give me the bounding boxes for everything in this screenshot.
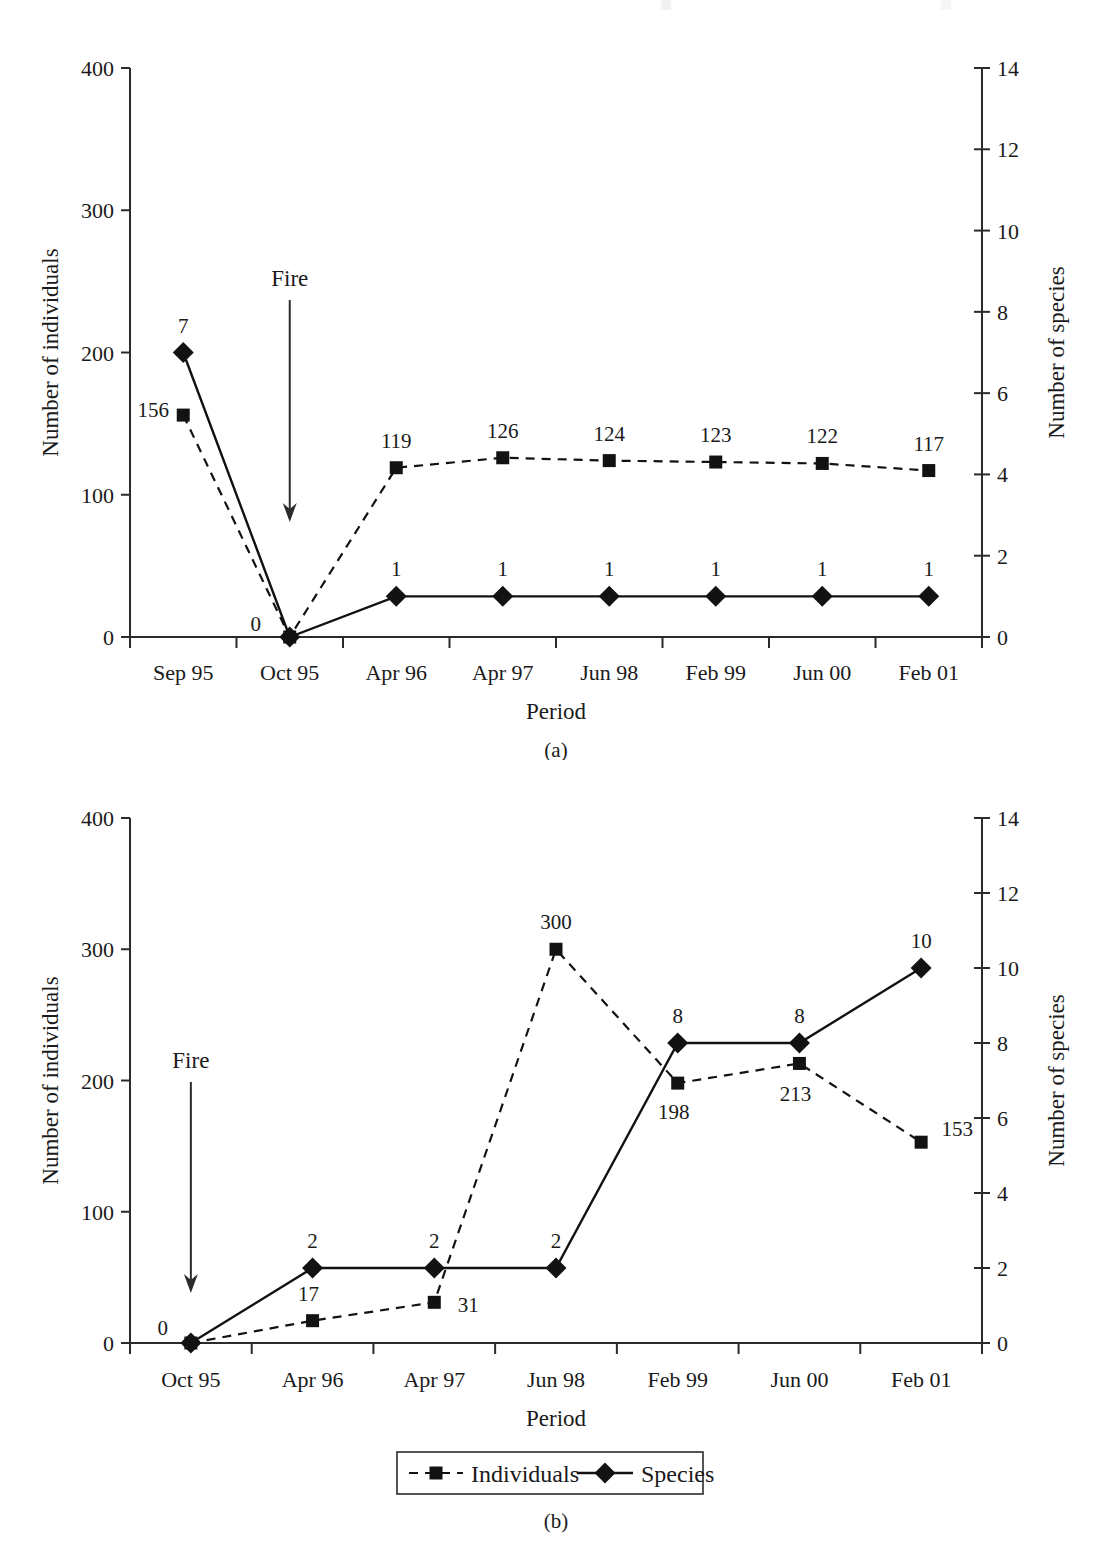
data-point-individuals: [390, 461, 403, 474]
data-label-species: 1: [498, 557, 509, 581]
data-label-species: 8: [794, 1004, 805, 1028]
right-axis-tick-label: 6: [997, 381, 1008, 406]
data-point-individuals: [793, 1057, 806, 1070]
data-label-individuals: 124: [594, 422, 626, 446]
data-point-individuals: [496, 451, 509, 464]
right-axis-tick-label: 2: [997, 544, 1008, 569]
data-labels-group: 017313001982131532228810: [158, 910, 973, 1340]
x-axis-category-label: Jun 98: [527, 1367, 585, 1392]
data-point-species: [546, 1258, 567, 1279]
axes-group: 010020030040002468101214Sep 95Oct 95Apr …: [38, 56, 1069, 724]
data-point-species: [667, 1033, 688, 1054]
left-axis-tick-label: 200: [81, 1069, 114, 1094]
chart-panel-a: 010020030040002468101214Sep 95Oct 95Apr …: [0, 0, 1095, 760]
x-axis-category-label: Feb 99: [686, 660, 747, 685]
data-point-individuals: [922, 464, 935, 477]
data-point-species: [386, 586, 407, 607]
right-axis-tick-label: 10: [997, 219, 1019, 244]
x-axis-title: Period: [526, 1406, 587, 1431]
data-label-species: 2: [307, 1229, 318, 1253]
right-axis-tick-label: 4: [997, 1181, 1008, 1206]
left-axis-tick-label: 300: [81, 198, 114, 223]
data-label-individuals: 0: [251, 612, 262, 636]
panel-caption: (b): [544, 1509, 569, 1533]
data-point-individuals: [816, 457, 829, 470]
data-point-individuals: [306, 1314, 319, 1327]
data-label-individuals: 123: [700, 423, 732, 447]
left-axis-tick-label: 0: [103, 625, 114, 650]
data-label-individuals: 17: [298, 1282, 319, 1306]
data-label-species: 1: [604, 557, 615, 581]
data-point-species: [424, 1258, 445, 1279]
data-label-individuals: 300: [540, 910, 572, 934]
right-axis-tick-label: 6: [997, 1106, 1008, 1131]
data-label-species: 1: [391, 557, 402, 581]
legend-label-individuals: Individuals: [471, 1461, 579, 1487]
data-label-species: 10: [911, 929, 932, 953]
left-axis-tick-label: 0: [103, 1331, 114, 1356]
series-group: [173, 342, 940, 648]
fire-annotation: Fire: [172, 1048, 209, 1293]
data-label-individuals: 198: [658, 1100, 690, 1124]
data-label-species: 2: [551, 1229, 562, 1253]
right-axis-tick-label: 8: [997, 1031, 1008, 1056]
left-axis-tick-label: 400: [81, 56, 114, 81]
data-label-species: 8: [672, 1004, 683, 1028]
chart-panel-b: 010020030040002468101214Oct 95Apr 96Apr …: [0, 760, 1095, 1541]
left-axis-tick-label: 100: [81, 483, 114, 508]
x-axis-category-label: Jun 98: [580, 660, 638, 685]
legend-label-species: Species: [641, 1461, 714, 1487]
data-label-individuals: 119: [381, 429, 412, 453]
data-point-individuals: [709, 456, 722, 469]
fire-annotation: Fire: [271, 266, 308, 522]
x-axis-category-label: Apr 96: [282, 1367, 344, 1392]
data-point-individuals: [915, 1136, 928, 1149]
right-axis-tick-label: 12: [997, 881, 1019, 906]
right-axis-tick-label: 2: [997, 1256, 1008, 1281]
chart-b-canvas: 010020030040002468101214Oct 95Apr 96Apr …: [0, 760, 1095, 1541]
data-label-individuals: 126: [487, 419, 519, 443]
data-point-species: [279, 627, 300, 648]
right-axis-tick-label: 0: [997, 1331, 1008, 1356]
left-axis-tick-label: 300: [81, 937, 114, 962]
x-axis-category-label: Feb 01: [899, 660, 960, 685]
fire-annotation-label: Fire: [172, 1048, 209, 1073]
data-point-species: [180, 1333, 201, 1354]
data-label-species: 7: [178, 314, 189, 338]
data-point-species: [173, 342, 194, 363]
figure-two-panel-line-charts: 010020030040002468101214Sep 95Oct 95Apr …: [0, 0, 1095, 1541]
x-axis-category-label: Jun 00: [770, 1367, 828, 1392]
right-axis-tick-label: 0: [997, 625, 1008, 650]
data-label-species: 1: [924, 557, 935, 581]
data-label-individuals: 122: [807, 424, 839, 448]
left-axis-tick-label: 200: [81, 341, 114, 366]
x-axis-category-label: Feb 01: [891, 1367, 952, 1392]
left-axis-tick-label: 400: [81, 806, 114, 831]
data-point-species: [705, 586, 726, 607]
x-axis-category-label: Feb 99: [647, 1367, 708, 1392]
data-point-individuals: [603, 454, 616, 467]
data-label-individuals: 213: [780, 1082, 812, 1106]
right-axis-tick-label: 14: [997, 806, 1019, 831]
left-axis-title: Number of individuals: [38, 976, 63, 1184]
right-axis-tick-label: 10: [997, 956, 1019, 981]
x-axis-category-label: Sep 95: [153, 660, 214, 685]
data-label-species: 1: [817, 557, 828, 581]
data-point-species: [599, 586, 620, 607]
data-point-individuals: [671, 1077, 684, 1090]
right-axis-title: Number of species: [1044, 994, 1069, 1166]
x-axis-category-label: Oct 95: [161, 1367, 220, 1392]
right-axis-tick-label: 12: [997, 137, 1019, 162]
data-point-species: [918, 586, 939, 607]
x-axis-category-label: Apr 97: [403, 1367, 465, 1392]
legend[interactable]: IndividualsSpecies: [397, 1452, 714, 1494]
data-label-species: 2: [429, 1229, 440, 1253]
data-point-species: [492, 586, 513, 607]
data-label-individuals: 31: [458, 1293, 479, 1317]
data-label-individuals: 117: [913, 432, 944, 456]
data-point-individuals: [550, 943, 563, 956]
right-axis-tick-label: 4: [997, 462, 1008, 487]
x-axis-title: Period: [526, 699, 587, 724]
data-point-species: [302, 1258, 323, 1279]
series-group: [180, 943, 931, 1354]
